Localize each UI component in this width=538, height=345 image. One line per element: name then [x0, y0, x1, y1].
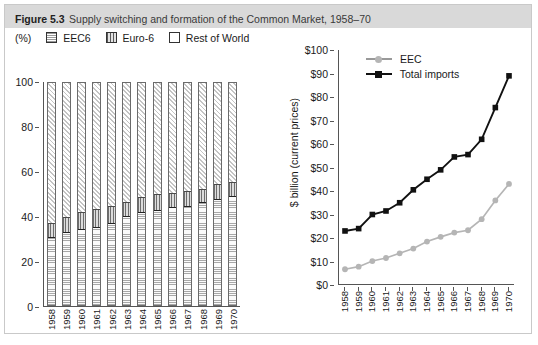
data-point-total-imports-1958	[342, 228, 348, 234]
bar-segment-rest-of-world	[108, 83, 115, 207]
bar-segment-rest-of-world	[78, 83, 85, 213]
line-series-group	[339, 50, 515, 285]
line-path-eec	[345, 184, 509, 269]
bar-segment-eec6	[169, 208, 176, 305]
data-point-total-imports-1969	[493, 105, 499, 111]
bar-segment-euro-6	[184, 192, 191, 208]
data-point-total-imports-1959	[356, 226, 362, 232]
line-x-label-1967: 1967	[462, 291, 472, 312]
legend-label-rest-of-world: Rest of World	[186, 32, 249, 44]
bar-segment-eec6	[108, 224, 115, 305]
bar-segment-euro-6	[93, 210, 100, 229]
bar-x-label-1967: 1967	[182, 309, 191, 345]
bar-segment-euro-6	[138, 198, 145, 212]
data-point-eec-1970	[506, 181, 512, 187]
bar-1968	[198, 82, 207, 306]
data-point-eec-1966	[451, 230, 457, 236]
bar-segment-rest-of-world	[63, 83, 70, 218]
line-x-label-1965: 1965	[435, 291, 445, 312]
bar-segment-rest-of-world	[138, 83, 145, 198]
euro6-swatch-icon	[106, 32, 117, 43]
line-y-tick-80: $80	[292, 91, 328, 103]
bar-y-tick-20: 20	[5, 256, 33, 268]
figure-number: Figure 5.3	[15, 13, 65, 25]
data-point-eec-1958	[342, 266, 348, 272]
bar-y-tick-100: 100	[5, 76, 33, 88]
bar-segment-euro-6	[78, 213, 85, 230]
legend-item-eec6: EEC6	[46, 32, 90, 44]
legend-label-eec6: EEC6	[63, 32, 90, 44]
bar-segment-euro-6	[229, 183, 236, 197]
bar-x-label-1959: 1959	[61, 309, 70, 345]
data-point-eec-1959	[356, 264, 362, 270]
line-x-label-1959: 1959	[353, 291, 363, 312]
bar-1960	[77, 82, 86, 306]
data-point-total-imports-1967	[465, 152, 471, 158]
bar-y-tick-80: 80	[5, 121, 33, 133]
data-point-eec-1968	[479, 216, 485, 222]
bar-y-tick-40: 40	[5, 211, 33, 223]
data-point-total-imports-1960	[370, 212, 376, 218]
bar-1966	[168, 82, 177, 306]
bar-x-label-1958: 1958	[46, 309, 55, 345]
bar-segment-eec6	[93, 228, 100, 305]
bar-segment-rest-of-world	[214, 83, 221, 185]
line-y-tick-0: $0	[292, 279, 328, 291]
bar-1962	[107, 82, 116, 306]
line-y-tick-30: $30	[292, 209, 328, 221]
line-x-label-1958: 1958	[339, 291, 349, 312]
rest-of-world-swatch-icon	[169, 32, 180, 43]
line-x-label-1963: 1963	[407, 291, 417, 312]
bar-x-label-1969: 1969	[213, 309, 222, 345]
line-chart-panel: $ billion (current prices) $0$10$20$30$4…	[292, 28, 533, 335]
bar-x-label-1968: 1968	[198, 309, 207, 345]
bar-segment-eec6	[214, 200, 221, 305]
data-point-eec-1969	[492, 198, 498, 204]
bar-segment-eec6	[199, 203, 206, 305]
data-point-eec-1965	[438, 234, 444, 240]
bar-x-label-1965: 1965	[152, 309, 161, 345]
bar-1964	[137, 82, 146, 306]
figure-title-bar: Figure 5.3 Supply switching and formatio…	[5, 5, 531, 28]
data-point-eec-1963	[410, 246, 416, 252]
bar-segment-eec6	[123, 217, 130, 305]
line-x-label-1968: 1968	[476, 291, 486, 312]
line-x-label-1961: 1961	[380, 291, 390, 312]
data-point-total-imports-1965	[438, 167, 444, 173]
bar-segment-euro-6	[123, 203, 130, 217]
bar-chart-y-axis: 020406080100	[5, 74, 39, 314]
data-point-total-imports-1966	[452, 154, 458, 160]
line-y-tick-60: $60	[292, 138, 328, 150]
bar-chart-panel: (%) EEC6 Euro-6 Rest of World 0204060801…	[5, 28, 292, 335]
data-point-total-imports-1961	[383, 208, 389, 214]
bar-segment-euro-6	[214, 185, 221, 199]
bar-x-label-1960: 1960	[76, 309, 85, 345]
bar-segment-rest-of-world	[229, 83, 236, 183]
line-y-tick-70: $70	[292, 115, 328, 127]
line-x-label-1969: 1969	[489, 291, 499, 312]
bar-1958	[47, 82, 56, 306]
line-y-tick-50: $50	[292, 162, 328, 174]
bar-segment-euro-6	[108, 207, 115, 224]
bar-chart-x-axis-labels: 1958195919601961196219631964196519661967…	[43, 309, 240, 345]
line-chart-x-axis-labels: 1958195919601961196219631964196519661967…	[338, 287, 514, 335]
line-y-tick-20: $20	[292, 232, 328, 244]
data-point-eec-1964	[424, 239, 430, 245]
bar-x-label-1963: 1963	[122, 309, 131, 345]
bar-segment-euro-6	[199, 190, 206, 203]
legend-item-rest-of-world: Rest of World	[169, 32, 249, 44]
bar-segment-rest-of-world	[154, 83, 161, 195]
data-point-total-imports-1968	[479, 137, 485, 143]
data-point-eec-1967	[465, 227, 471, 233]
bar-x-label-1966: 1966	[167, 309, 176, 345]
bar-segment-eec6	[48, 238, 55, 305]
bar-segment-rest-of-world	[199, 83, 206, 190]
line-y-tick-40: $40	[292, 185, 328, 197]
page-title: Supply switching and formation of the Co…	[69, 13, 371, 25]
bar-segment-euro-6	[154, 195, 161, 211]
line-y-tick-10: $10	[292, 256, 328, 268]
bar-segment-rest-of-world	[93, 83, 100, 210]
bar-1959	[62, 82, 71, 306]
bar-1967	[183, 82, 192, 306]
legend-item-euro6: Euro-6	[106, 32, 154, 44]
